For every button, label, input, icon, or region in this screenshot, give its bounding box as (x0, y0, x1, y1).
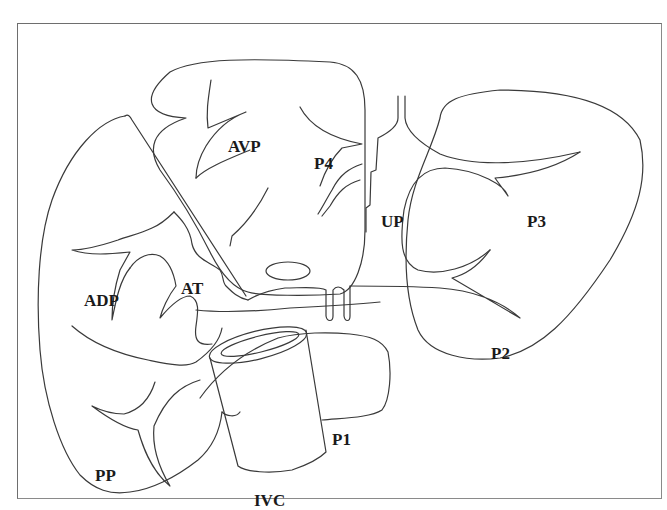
pp-branch (72, 326, 222, 486)
p4-branch-upper (300, 107, 362, 186)
label-adp: ADP (84, 292, 119, 309)
label-p1: P1 (332, 431, 351, 448)
ligament-oval (266, 262, 310, 280)
p2-branch (350, 250, 520, 318)
label-avp: AVP (228, 138, 261, 155)
label-at: AT (181, 280, 203, 297)
main-portal-trunk-lower (196, 302, 380, 311)
upper-segment-outline (151, 60, 365, 296)
label-pp: PP (95, 467, 116, 484)
label-p4: P4 (314, 155, 333, 172)
left-lateral-lobe-outline (406, 90, 643, 359)
label-p3: P3 (527, 213, 546, 230)
ivc-cylinder (206, 319, 326, 472)
adp-branch (130, 255, 212, 345)
label-up: UP (381, 213, 404, 230)
label-ivc: IVC (254, 492, 285, 509)
right-lobe-outline (38, 116, 222, 493)
main-portal-trunk (248, 286, 350, 321)
umbilical-portion-right (405, 96, 580, 163)
avp-branch-upper (196, 80, 246, 178)
avp-branch-tip (230, 188, 268, 246)
label-p2: P2 (491, 345, 510, 362)
p3-branch (402, 152, 580, 272)
